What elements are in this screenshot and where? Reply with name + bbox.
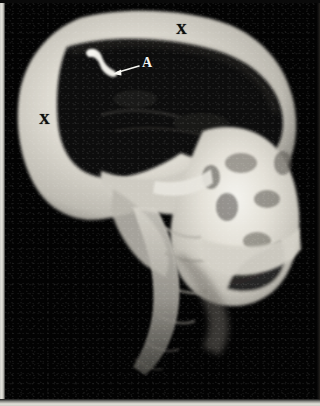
- marker-a-label: A: [142, 56, 152, 70]
- marker-x-superior: X: [176, 22, 187, 37]
- radiograph-image: X X A: [0, 0, 320, 406]
- xray-field: [5, 3, 316, 399]
- film-border-right: [316, 0, 320, 406]
- marker-x-posterior: X: [39, 112, 50, 127]
- film-border-top: [0, 0, 320, 3]
- film-border-bottom: [0, 399, 320, 406]
- film-border-left: [0, 0, 5, 406]
- xray-canvas: [5, 3, 316, 399]
